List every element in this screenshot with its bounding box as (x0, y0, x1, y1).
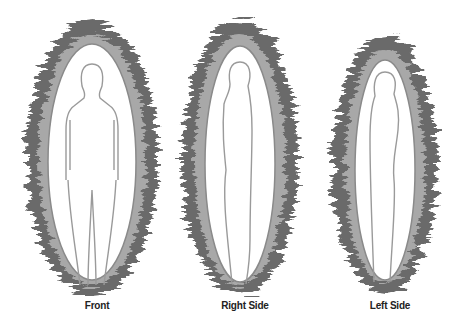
figure-label-right-side: Right Side (195, 300, 295, 311)
aura-illustration (0, 0, 470, 331)
figure-label-left-side: Left Side (340, 300, 440, 311)
left-side-aura (333, 34, 437, 294)
front-aura (26, 20, 158, 296)
figure-label-front: Front (47, 300, 147, 311)
